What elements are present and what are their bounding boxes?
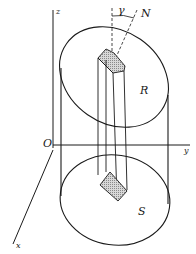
y-axis-label: y [184, 147, 189, 155]
x-axis [13, 150, 53, 244]
prism-edge [124, 71, 127, 190]
axes [13, 10, 190, 244]
surface-R-label: R [140, 85, 148, 96]
prism-bottom-face [100, 172, 127, 201]
x-axis-label: x [16, 242, 21, 250]
bottom-surface-S [54, 148, 175, 252]
normal-N-label: N [141, 8, 151, 19]
surface-S-label: S [138, 206, 146, 217]
prism-top-face [98, 49, 125, 73]
top-surface-R [40, 6, 188, 148]
cylinder [40, 6, 188, 252]
z-axis-label: z [56, 8, 60, 16]
diagram-canvas [0, 0, 196, 254]
angle-gamma-label: γ [118, 5, 125, 16]
prism [98, 49, 127, 201]
origin-label: O [43, 138, 52, 149]
